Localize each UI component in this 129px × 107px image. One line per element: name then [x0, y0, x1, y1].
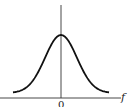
x-axis-label: f	[121, 92, 125, 103]
bell-curve-chart	[0, 0, 129, 107]
origin-tick-label: 0	[58, 100, 64, 107]
